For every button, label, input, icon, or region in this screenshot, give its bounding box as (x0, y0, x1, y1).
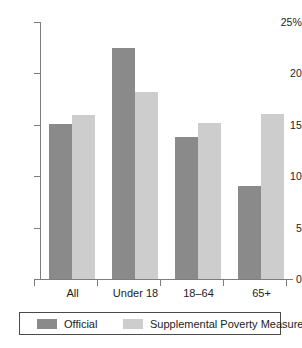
bar-18-64-supplemental-poverty-measure (198, 123, 221, 279)
x-label-under-18: Under 18 (104, 288, 167, 299)
x-tick-0 (34, 279, 35, 286)
x-tick-1 (97, 279, 98, 286)
x-label-all: All (41, 288, 104, 299)
plot-area: 0510152025% AllUnder 1818–6465+ (0, 0, 302, 300)
bar-65--official (238, 186, 261, 280)
legend-label-official: Official (64, 319, 97, 330)
legend-swatch-spm (123, 319, 143, 329)
chart-legend: Official Supplemental Poverty Measure (19, 312, 281, 335)
legend-item-official: Official (37, 318, 97, 330)
bar-under-18-official (112, 48, 135, 279)
legend-swatch-official (37, 319, 57, 329)
legend-label-spm: Supplemental Poverty Measure (150, 319, 302, 330)
bar-all-official (49, 124, 72, 279)
poverty-rate-bar-chart: 0510152025% AllUnder 1818–6465+ Official… (0, 0, 302, 348)
bar-65--supplemental-poverty-measure (261, 114, 284, 280)
x-axis-line (34, 279, 293, 280)
legend-item-spm: Supplemental Poverty Measure (123, 318, 302, 330)
x-label-65-: 65+ (230, 288, 293, 299)
x-tick-2 (160, 279, 161, 286)
x-tick-3 (223, 279, 224, 286)
bar-under-18-supplemental-poverty-measure (135, 92, 158, 279)
bar-18-64-official (175, 137, 198, 279)
y-tick-0 (34, 279, 41, 280)
bars-layer (0, 0, 302, 279)
x-tick-4 (286, 279, 287, 286)
bar-all-supplemental-poverty-measure (72, 115, 95, 280)
x-label-18-64: 18–64 (167, 288, 230, 299)
